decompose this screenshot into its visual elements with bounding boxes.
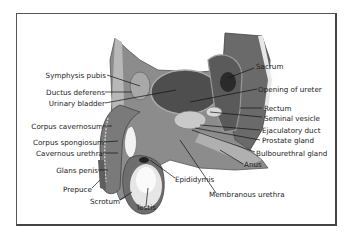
label-urinary-bladder: Urinary bladder: [49, 99, 105, 108]
label-seminal-vesicle: Seminal vesicle: [264, 114, 320, 123]
label-corpus-cavernosum: Corpus cavernosum: [31, 122, 103, 131]
label-corpus-spongiosum: Corpus spongiosum: [33, 138, 104, 147]
label-ductus-deferens: Ductus deferens: [46, 88, 105, 97]
label-symphysis-pubis: Symphysis pubis: [46, 71, 106, 80]
label-prostate-gland: Prostate gland: [262, 136, 314, 145]
label-opening-of-ureter: Opening of ureter: [258, 85, 322, 94]
label-glans-penis: Glans penis: [56, 166, 98, 175]
label-testis: Testis: [136, 203, 156, 212]
label-membranous-urethra: Membranous urethra: [209, 190, 285, 199]
label-scrotum: Scrotum: [90, 197, 120, 206]
label-ejaculatory-duct: Ejaculatory duct: [262, 126, 320, 135]
label-sacrum: Sacrum: [256, 62, 283, 71]
label-prepuce: Prepuce: [63, 185, 92, 194]
label-anus: Anus: [244, 160, 262, 169]
label-epididymis: Epididymis: [175, 175, 214, 184]
label-cavernous-urethra: Cavernous urethra: [36, 149, 103, 158]
label-rectum: Rectum: [264, 104, 291, 113]
label-bulbourethral-gland: Bulbourethral gland: [256, 149, 327, 158]
